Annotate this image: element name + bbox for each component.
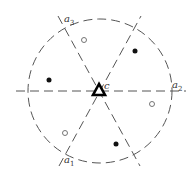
axis-a3-label: a3: [64, 13, 74, 27]
axis-a1-label: a1: [64, 154, 74, 168]
center-label: c: [104, 80, 110, 91]
open-point: [63, 131, 68, 136]
open-point: [150, 102, 155, 107]
filled-point: [47, 78, 52, 83]
filled-point: [114, 142, 119, 147]
filled-points: [47, 49, 138, 147]
axis-a2-label: a2: [172, 79, 182, 93]
symmetry-diagram: c a3 a2 a1: [0, 0, 193, 182]
filled-point: [133, 49, 138, 54]
open-point: [82, 38, 87, 43]
